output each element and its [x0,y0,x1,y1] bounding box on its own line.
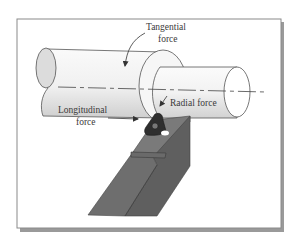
longitudinal-label-line2: force [76,117,96,127]
cutting-forces-diagram: Tangential force Radial force Longitudin… [0,0,297,242]
longitudinal-label-line1: Longitudinal [58,105,107,115]
workpiece-right-end [224,67,250,117]
tangential-label-line2: force [158,34,178,44]
workpiece-small [153,67,251,118]
radial-label: Radial force [170,98,217,108]
tangential-label-line1: Tangential [146,22,186,32]
workpiece-left-end [36,48,56,88]
